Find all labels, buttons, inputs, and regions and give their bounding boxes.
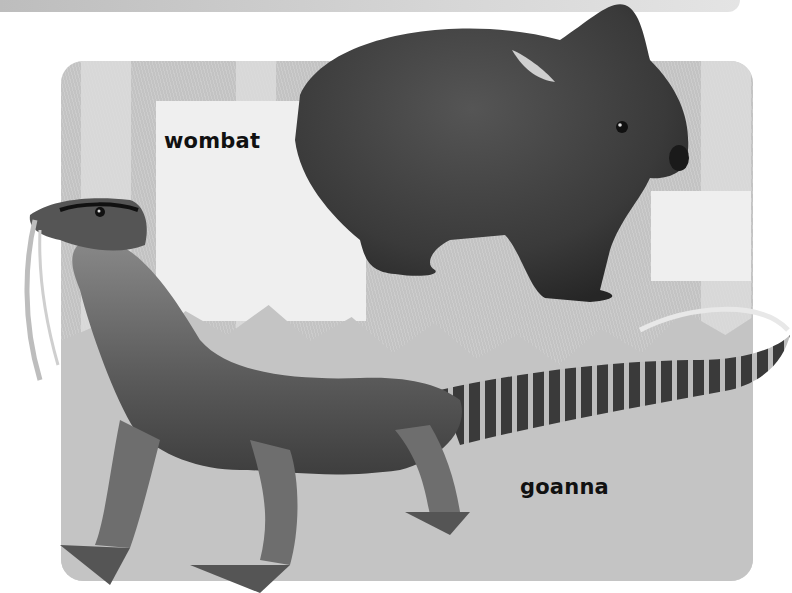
animal-illustrations (0, 0, 792, 593)
wombat-illustration (295, 4, 689, 302)
goanna-label: goanna (520, 475, 609, 499)
wombat-label: wombat (164, 129, 260, 153)
